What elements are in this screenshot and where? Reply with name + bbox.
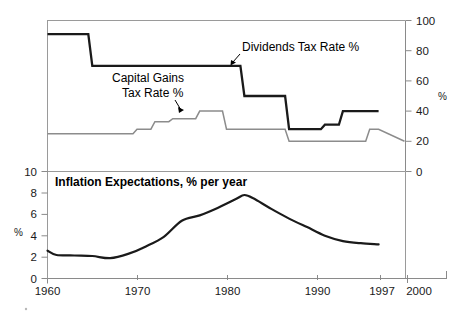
xtick-1960: 1960: [35, 285, 61, 297]
xtick-2000: 2000: [406, 285, 432, 297]
ytick-left-0: 0: [31, 273, 37, 285]
ytick-right-0: 0: [416, 166, 422, 178]
series-line-inflation-expectations: [48, 195, 379, 258]
x-axis-tick-labels: 1960 1970 1980 1990 1997 2000: [35, 285, 432, 297]
bottom-panel-left-tick-labels: 10 8 6 4 2 0: [24, 166, 37, 285]
bottom-panel-title: Inflation Expectations, % per year: [55, 175, 247, 189]
scan-artifact-speck: [25, 308, 27, 310]
top-panel-right-tick-labels: 100 80 60 40 20 0: [416, 15, 435, 178]
bottom-panel-axis-unit-label: %: [14, 227, 23, 238]
top-panel-right-axis: [406, 21, 412, 172]
ytick-left-6: 6: [31, 208, 37, 220]
x-axis: [48, 271, 448, 284]
xtick-1980: 1980: [215, 285, 241, 297]
ytick-right-20: 20: [416, 135, 429, 147]
top-panel-axis-unit-label: %: [438, 91, 447, 102]
ytick-left-10: 10: [24, 166, 37, 178]
ytick-left-2: 2: [31, 251, 37, 263]
annotation-capital-gains-tax-rate: Capital Gains Tax Rate %: [112, 71, 184, 113]
ytick-right-80: 80: [416, 45, 429, 57]
annotation-capital-gains-label-line1: Capital Gains: [112, 71, 184, 85]
xtick-1970: 1970: [125, 285, 151, 297]
xtick-1990: 1990: [305, 285, 331, 297]
xtick-1997: 1997: [369, 285, 395, 297]
series-line-capital-gains-tax-rate: [48, 111, 405, 141]
ytick-left-4: 4: [31, 230, 38, 242]
annotation-capital-gains-label-line2: Tax Rate %: [122, 86, 184, 100]
chart-figure: 100 80 60 40 20 0 % Dividends Tax Rate %…: [0, 0, 465, 316]
annotation-dividends-tax-rate: Dividends Tax Rate %: [231, 40, 360, 66]
ytick-right-100: 100: [416, 15, 435, 27]
ytick-left-8: 8: [31, 187, 37, 199]
chart-canvas: 100 80 60 40 20 0 % Dividends Tax Rate %…: [0, 0, 465, 316]
annotation-capital-gains-arrow: [178, 107, 184, 113]
bottom-panel-left-axis: [42, 172, 48, 279]
ytick-right-60: 60: [416, 75, 429, 87]
ytick-right-40: 40: [416, 105, 429, 117]
annotation-dividends-label: Dividends Tax Rate %: [242, 40, 360, 54]
